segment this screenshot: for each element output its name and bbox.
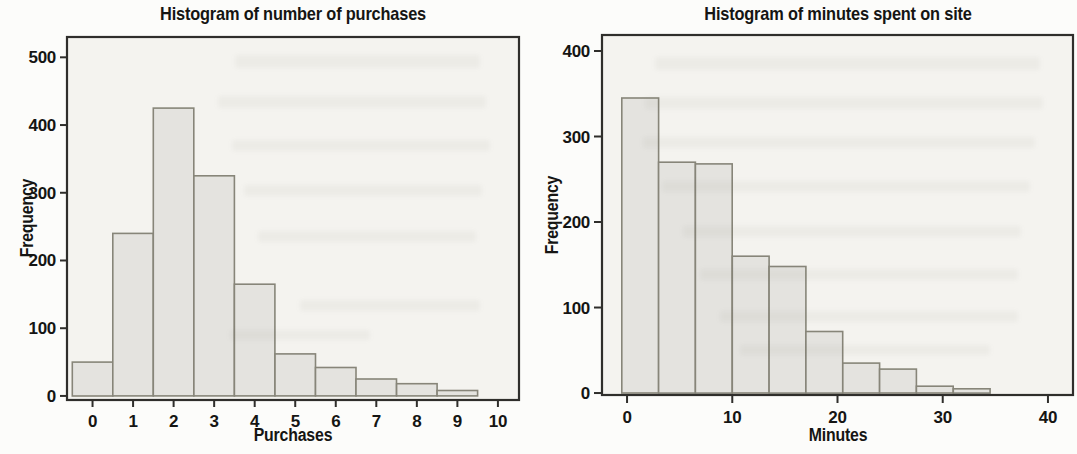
- x-tick-label: 0: [622, 408, 631, 427]
- histogram-bar: [356, 379, 397, 396]
- x-tick-label: 7: [372, 412, 381, 431]
- scanned-book-page: 0123456789100100200300400500010203040010…: [0, 0, 1077, 454]
- x-tick-label: 10: [723, 408, 741, 427]
- y-tick-label: 100: [563, 299, 590, 318]
- histogram-bar: [113, 233, 154, 396]
- y-tick-label: 0: [47, 387, 56, 406]
- x-tick-label: 40: [1039, 408, 1057, 427]
- histogram-bar: [153, 108, 194, 396]
- x-tick-label: 2: [169, 412, 178, 431]
- y-tick-label: 400: [29, 116, 56, 135]
- y-tick-label: 0: [581, 384, 590, 403]
- histogram-bar: [316, 368, 357, 396]
- x-axis-label-minutes: Minutes: [809, 425, 868, 446]
- histogram-bar: [622, 98, 659, 393]
- x-tick-label: 3: [210, 412, 219, 431]
- histogram-bar: [275, 354, 316, 396]
- x-tick-label: 30: [934, 408, 952, 427]
- histogram-bar: [234, 284, 275, 396]
- chart-title-minutes: Histogram of minutes spent on site: [704, 3, 971, 25]
- histogram-bar: [72, 362, 113, 396]
- histogram-bar: [659, 162, 696, 393]
- x-tick-label: 6: [331, 412, 340, 431]
- x-tick-label: 10: [489, 412, 507, 431]
- chart-title-purchases: Histogram of number of purchases: [160, 3, 426, 25]
- histogram-bar: [732, 256, 769, 393]
- histogram-bar: [880, 369, 917, 393]
- histogram-bar: [397, 384, 438, 396]
- x-tick-label: 8: [412, 412, 421, 431]
- histogram-bar: [953, 389, 990, 393]
- histogram-bar: [695, 164, 732, 393]
- y-axis-label-frequency-left: Frequency: [17, 179, 38, 258]
- y-axis-label-frequency-right: Frequency: [542, 176, 563, 255]
- charts-canvas: 0123456789100100200300400500010203040010…: [0, 0, 1077, 454]
- y-tick-label: 400: [563, 42, 590, 61]
- x-tick-label: 0: [88, 412, 97, 431]
- x-tick-label: 9: [453, 412, 462, 431]
- y-tick-label: 500: [29, 48, 56, 67]
- histogram-bar: [843, 363, 880, 393]
- y-tick-label: 300: [563, 128, 590, 147]
- histogram-bar: [194, 176, 235, 396]
- x-tick-label: 1: [128, 412, 137, 431]
- y-tick-label: 100: [29, 319, 56, 338]
- histogram-bar: [437, 391, 478, 396]
- x-axis-label-purchases: Purchases: [254, 425, 333, 446]
- histogram-bar: [769, 267, 806, 394]
- histogram-bar: [916, 386, 953, 393]
- y-tick-label: 200: [563, 213, 590, 232]
- histogram-bar: [806, 332, 843, 394]
